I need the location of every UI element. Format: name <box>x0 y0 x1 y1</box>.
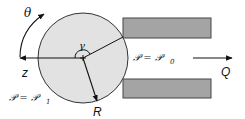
z-label: z <box>21 66 28 80</box>
svg-text:1: 1 <box>46 98 50 106</box>
q-label: Q <box>221 65 230 79</box>
svg-text:0: 0 <box>170 58 175 66</box>
pressure-outlet-label: 𝒫 = 𝒫 0 <box>133 52 175 66</box>
theta-label: θ <box>24 6 32 20</box>
svg-text:𝒫 = 𝒫: 𝒫 = 𝒫 <box>133 52 165 63</box>
svg-text:𝒫 = 𝒫: 𝒫 = 𝒫 <box>9 92 41 103</box>
upper-wall <box>123 18 211 38</box>
diagram-canvas: θ γ z R Q 𝒫 = 𝒫 0 𝒫 = 𝒫 1 <box>0 0 245 119</box>
gamma-label: γ <box>79 40 85 51</box>
r-label: R <box>93 105 102 119</box>
pressure-inlet-label: 𝒫 = 𝒫 1 <box>9 92 50 106</box>
lower-wall <box>123 79 211 98</box>
